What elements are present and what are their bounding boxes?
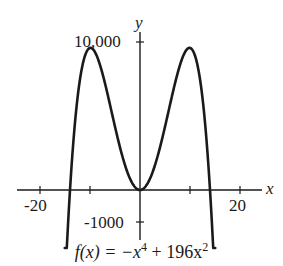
x-tick-label-left: -20	[24, 197, 47, 214]
x-axis-label: x	[266, 180, 274, 197]
caption-exp2: 2	[202, 240, 208, 254]
function-caption: f(x) = −x4 + 196x2	[0, 241, 283, 261]
x-tick-label-right: 20	[229, 197, 246, 214]
caption-mid: + 196x	[147, 242, 202, 262]
y-tick-label-top: 10,000	[74, 33, 121, 50]
function-graph	[0, 0, 283, 266]
y-tick-label-bottom: -1000	[84, 214, 124, 231]
caption-prefix: f(x) = −x	[75, 242, 141, 262]
y-axis-label: y	[135, 14, 143, 31]
